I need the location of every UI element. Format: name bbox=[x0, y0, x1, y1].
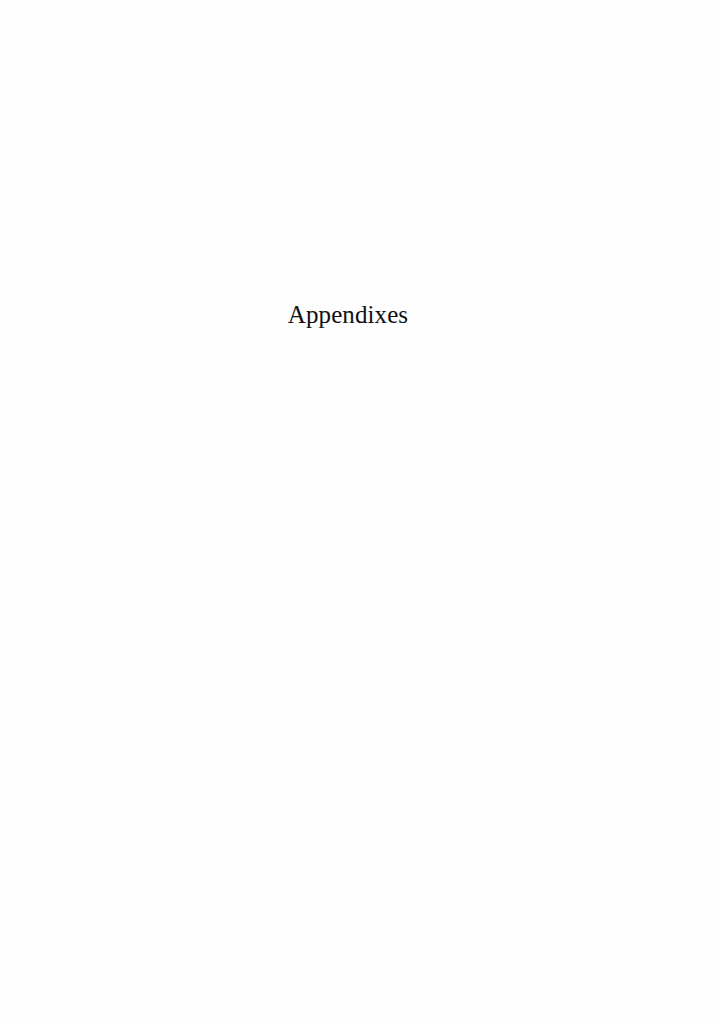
part-title: Appendixes bbox=[0, 300, 696, 330]
document-page: Appendixes bbox=[0, 0, 716, 1023]
